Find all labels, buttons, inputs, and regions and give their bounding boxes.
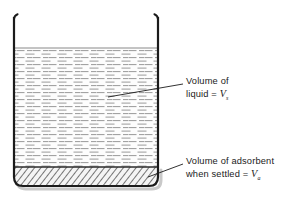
symbol-volume-adsorbent: Va — [251, 168, 261, 179]
liquid-fill — [10, 48, 170, 168]
symbol-subscript-liquid: s — [226, 95, 229, 101]
label-liquid-line1: Volume of — [186, 76, 229, 88]
symbol-subscript-adsorbent: a — [257, 175, 260, 181]
beaker-contents — [10, 10, 170, 189]
label-volume-of-adsorbent: Volume of adsorbent when settled = Va — [186, 156, 274, 180]
label-volume-of-liquid: Volume of liquid = Vs — [186, 76, 229, 100]
label-adsorbent-line2: when settled = Va — [186, 168, 274, 181]
label-adsorbent-prefix: when settled = — [186, 169, 251, 179]
air-gap — [10, 10, 170, 50]
label-liquid-line2: liquid = Vs — [186, 88, 229, 101]
label-adsorbent-line1: Volume of adsorbent — [186, 156, 274, 168]
label-liquid-prefix: liquid = — [186, 89, 220, 99]
symbol-volume-liquid: Vs — [220, 88, 229, 99]
figure-canvas: Volume of liquid = Vs Volume of adsorben… — [0, 0, 287, 198]
